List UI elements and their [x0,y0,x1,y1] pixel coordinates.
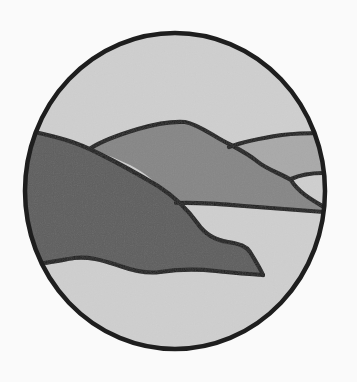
landscape-illustration [0,0,357,382]
illustration-canvas [0,0,357,382]
circle-contents [0,0,357,382]
